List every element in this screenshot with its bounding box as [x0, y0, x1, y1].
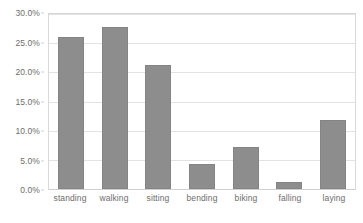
bar-series	[49, 14, 355, 189]
y-tick-mark	[41, 72, 44, 73]
y-tick-mark	[41, 160, 44, 161]
x-tick-label-falling: falling	[268, 193, 312, 203]
x-tick-label-bending: bending	[180, 193, 224, 203]
y-tick-label: 25.0%	[15, 38, 40, 48]
bar-laying[interactable]	[320, 120, 346, 189]
bar-standing[interactable]	[58, 37, 84, 189]
bar-slot	[311, 14, 355, 189]
y-tick-label: 20.0%	[15, 67, 40, 77]
bar-slot	[93, 14, 137, 189]
y-tick-label: 0.0%	[20, 185, 40, 195]
y-tick-mark	[41, 131, 44, 132]
y-tick-mark	[41, 42, 44, 43]
bar-slot	[180, 14, 224, 189]
bar-bending[interactable]	[189, 164, 215, 189]
bar-slot	[268, 14, 312, 189]
y-tick-label: 30.0%	[15, 8, 40, 18]
bar-slot	[136, 14, 180, 189]
y-tick-label: 5.0%	[20, 156, 40, 166]
bar-slot	[224, 14, 268, 189]
x-tick-label-standing: standing	[48, 193, 92, 203]
y-tick-mark	[41, 101, 44, 102]
gridline	[49, 189, 355, 190]
bar-biking[interactable]	[233, 147, 259, 189]
y-tick-label: 15.0%	[15, 97, 40, 107]
x-tick-label-walking: walking	[92, 193, 136, 203]
y-tick-label: 10.0%	[15, 126, 40, 136]
y-tick-mark	[41, 13, 44, 14]
bar-sitting[interactable]	[145, 65, 171, 189]
x-tick-label-sitting: sitting	[136, 193, 180, 203]
y-axis: 0.0%5.0%10.0%15.0%20.0%25.0%30.0%	[0, 13, 44, 190]
bar-chart: 0.0%5.0%10.0%15.0%20.0%25.0%30.0% standi…	[0, 0, 363, 223]
x-tick-label-biking: biking	[224, 193, 268, 203]
bar-falling[interactable]	[276, 182, 302, 189]
bar-walking[interactable]	[102, 27, 128, 189]
bar-slot	[49, 14, 93, 189]
x-axis: standingwalkingsittingbendingbikingfalli…	[48, 193, 356, 203]
x-tick-label-laying: laying	[312, 193, 356, 203]
plot-area	[48, 13, 356, 190]
y-tick-mark	[41, 190, 44, 191]
